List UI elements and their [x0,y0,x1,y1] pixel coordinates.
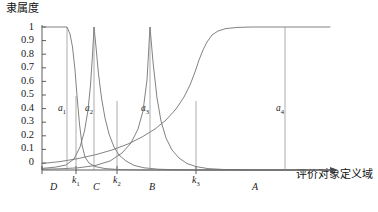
peak-indicator-lines [67,27,285,170]
curve-C [42,27,330,170]
chart-canvas [0,0,378,212]
membership-curves [42,27,330,170]
axes-group [42,25,338,173]
curve-D [42,27,330,170]
y-tick-marks [42,27,46,163]
fuzzy-membership-chart: 隶属度 评价对象定义域 1 0.9 0.8 0.7 0.6 0.5 0.4 0.… [0,0,378,212]
curve-A [42,27,330,164]
curve-B [42,27,330,170]
x-axis-arrowhead [330,167,338,173]
